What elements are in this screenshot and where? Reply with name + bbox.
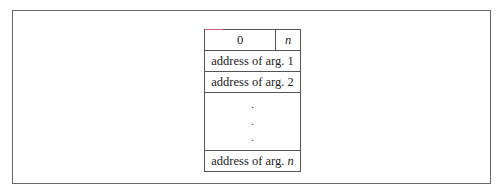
ellipsis-dot: . — [251, 100, 254, 110]
ellipsis-dot: . — [251, 133, 254, 143]
header-row: 0 n — [205, 30, 300, 51]
count-cell: 0 — [205, 30, 276, 50]
ellipsis-cell: . . . — [205, 93, 300, 151]
arg-row-n-prefix: address of arg. — [211, 154, 287, 169]
arg-row-1: address of arg. 1 — [205, 51, 300, 72]
arg-row-2: address of arg. 2 — [205, 72, 300, 93]
arg-row-n: address of arg. n — [205, 151, 300, 171]
arg-row-n-suffix: n — [287, 154, 293, 169]
n-cell: n — [276, 30, 300, 50]
ellipsis-dot: . — [251, 117, 254, 127]
argument-list-table: 0 n address of arg. 1 address of arg. 2 … — [204, 29, 301, 172]
